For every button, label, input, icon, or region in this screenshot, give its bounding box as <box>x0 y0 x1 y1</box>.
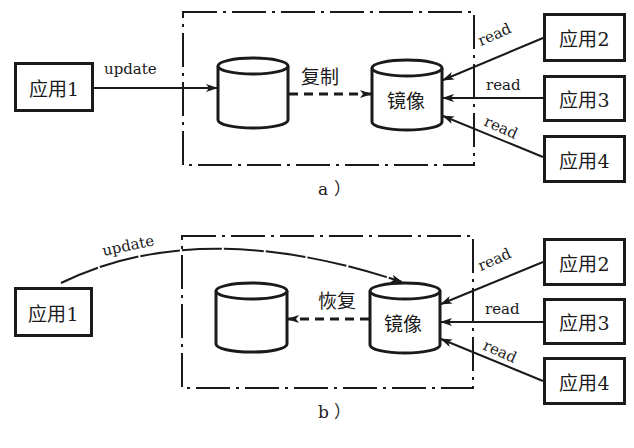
app-label: 应用4 <box>559 368 609 395</box>
app-label: 应用1 <box>28 299 78 326</box>
primary-db-cylinder-a <box>218 58 288 128</box>
primary-db-cylinder-b <box>216 283 287 352</box>
app-box-reader-a-4: 应用4 <box>543 135 626 183</box>
read-label-b-3: read <box>485 302 520 317</box>
read-label-a-3: read <box>486 78 521 93</box>
replicate-label-a: 复制 <box>301 68 339 87</box>
restore-label-b: 恢复 <box>318 292 356 311</box>
app-label: 应用2 <box>559 24 609 51</box>
mirror-db-label-b: 镜像 <box>384 315 422 334</box>
app-box-source-b: 应用1 <box>14 287 93 337</box>
app-label: 应用2 <box>559 249 609 276</box>
caption-b: b ） <box>318 404 351 421</box>
app-box-reader-a-3: 应用3 <box>543 75 626 122</box>
app-label: 应用4 <box>559 146 609 173</box>
update-label-a: update <box>104 62 157 77</box>
app-label: 应用3 <box>559 308 609 335</box>
diagram-b <box>61 236 543 388</box>
mirror-db-label-a: 镜像 <box>387 92 425 111</box>
app-box-reader-a-2: 应用2 <box>543 13 626 62</box>
app-label: 应用3 <box>559 85 609 112</box>
app-box-reader-b-2: 应用2 <box>543 238 626 286</box>
caption-a: a ） <box>318 181 351 198</box>
app-box-source-a: 应用1 <box>14 62 94 112</box>
app-label: 应用1 <box>29 74 79 101</box>
app-box-reader-b-4: 应用4 <box>543 357 626 405</box>
app-box-reader-b-3: 应用3 <box>543 298 626 345</box>
